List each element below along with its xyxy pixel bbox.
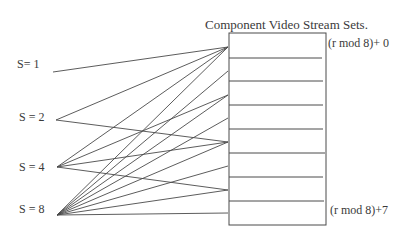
connection-line — [57, 118, 228, 215]
stream-set-box — [229, 33, 326, 225]
slot-last-label: (r mod 8)+7 — [330, 203, 388, 217]
slot-first-label: (r mod 8)+ 0 — [328, 36, 389, 50]
connection-line — [57, 47, 228, 167]
source-label-s1: S= 1 — [17, 57, 39, 71]
connection-line — [57, 95, 228, 215]
connection-line — [57, 47, 228, 215]
diagram-title: Component Video Stream Sets. — [205, 17, 368, 32]
connection-line — [56, 47, 228, 120]
stream-set-diagram: Component Video Stream Sets. (r mod 8)+ … — [0, 0, 414, 240]
connection-lines — [53, 47, 228, 215]
connection-line — [57, 213, 228, 215]
connection-line — [53, 47, 228, 72]
source-label-s8: S = 8 — [19, 202, 44, 216]
connection-line — [57, 166, 228, 215]
source-label-s2: S = 2 — [19, 110, 44, 124]
connection-line — [57, 142, 228, 215]
source-label-s4: S = 4 — [19, 160, 44, 174]
